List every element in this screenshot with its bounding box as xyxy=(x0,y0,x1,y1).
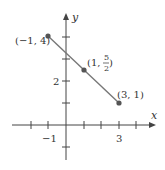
point-3-1 xyxy=(116,100,121,105)
point-label-3-1: (3, 1) xyxy=(117,89,144,100)
midpoint-label-suffix: ) xyxy=(109,57,113,68)
x-axis-label: x xyxy=(151,109,158,122)
x-tick-label-neg1: −1 xyxy=(42,133,57,144)
point-midpoint xyxy=(81,67,86,72)
y-axis-arrow-icon xyxy=(63,13,69,20)
y-tick-label-2: 2 xyxy=(53,76,59,87)
midpoint-label-prefix: (1, xyxy=(87,57,100,68)
x-axis: x −1 3 xyxy=(12,109,158,144)
y-axis: y 2 xyxy=(53,11,79,160)
point-label-midpoint: (1, 5 2 ) xyxy=(87,53,113,73)
x-axis-arrow-icon xyxy=(149,122,156,128)
point-label-neg1-4: (−1, 4) xyxy=(15,35,50,46)
x-tick-label-3: 3 xyxy=(116,133,122,144)
coordinate-diagram: x −1 3 y 2 (−1, 4) (1, 5 2 ) (3, 1) xyxy=(0,0,165,170)
y-axis-label: y xyxy=(71,11,79,24)
